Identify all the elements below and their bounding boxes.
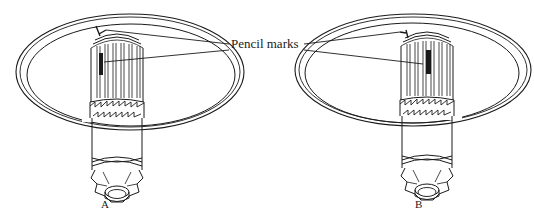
pencil-marks-callout: Pencil marks xyxy=(231,36,299,52)
leader-line-b-ring xyxy=(304,32,400,44)
pencil-mark-gear-a xyxy=(99,53,103,75)
pencil-mark-gear-b xyxy=(426,50,431,74)
pencil-mark-ring-a xyxy=(96,26,106,36)
panel-label-a: A xyxy=(101,198,109,210)
panel-a xyxy=(16,14,244,202)
panel-b xyxy=(295,14,531,200)
panel-label-b: B xyxy=(415,198,422,210)
leader-line-a-ring xyxy=(106,30,229,44)
diagram-canvas xyxy=(0,0,534,218)
